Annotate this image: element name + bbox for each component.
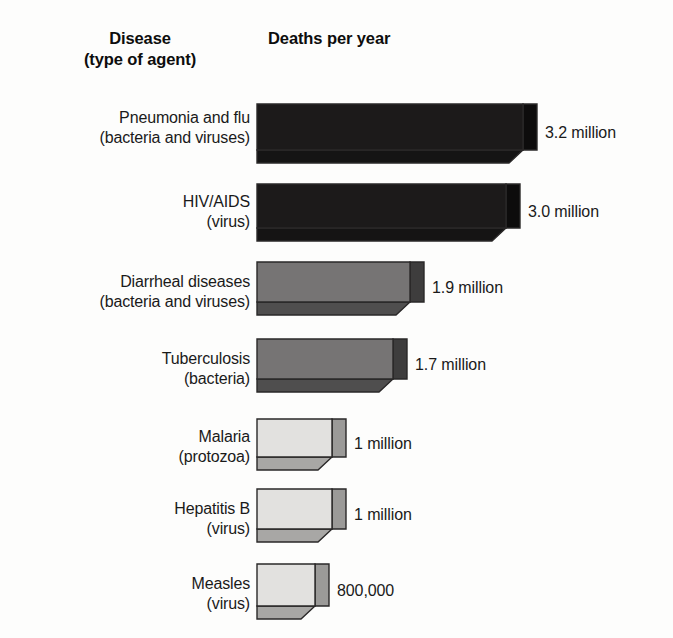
value-label-diarrheal-diseases: 1.9 million — [432, 278, 503, 298]
bar-face-side — [523, 104, 537, 150]
bar-container-malaria — [255, 417, 348, 472]
value-label-hepatitis-b: 1 million — [354, 505, 412, 525]
column-header-disease-line2: (type of agent) — [84, 50, 196, 68]
category-label-pneumonia-and-flu: Pneumonia and flu(bacteria and viruses) — [0, 108, 250, 148]
chart-row-measles: Measles(virus)800,000 — [0, 556, 673, 623]
chart-row-malaria: Malaria(protozoa)1 million — [0, 411, 673, 474]
category-label-line2: (virus) — [0, 212, 250, 232]
bar-container-hepatitis-b — [255, 487, 348, 544]
bar-face-side — [315, 564, 329, 606]
chart-row-tuberculosis: Tuberculosis(bacteria)1.7 million — [0, 331, 673, 396]
column-header-deaths: Deaths per year — [268, 28, 508, 49]
category-label-line1: Tuberculosis — [162, 350, 250, 367]
bar-face-front — [257, 104, 523, 150]
value-label-hiv-aids: 3.0 million — [528, 202, 599, 222]
category-label-malaria: Malaria(protozoa) — [0, 427, 250, 467]
category-label-hiv-aids: HIV/AIDS(virus) — [0, 192, 250, 232]
bar-face-side — [410, 262, 424, 302]
bar-face-front — [257, 262, 410, 302]
bar-face-front — [257, 184, 506, 228]
column-header-disease-line1: Disease — [109, 29, 171, 47]
bar-container-pneumonia-and-flu — [255, 102, 539, 165]
bar-face-side — [332, 489, 346, 529]
bar-container-measles — [255, 562, 331, 621]
category-label-diarrheal-diseases: Diarrheal diseases(bacteria and viruses) — [0, 272, 250, 312]
category-label-line2: (bacteria and viruses) — [0, 128, 250, 148]
bar-face-front — [257, 419, 332, 457]
chart-row-hepatitis-b: Hepatitis B(virus)1 million — [0, 481, 673, 546]
bar-face-bottom — [257, 150, 523, 163]
category-label-measles: Measles(virus) — [0, 574, 250, 614]
category-label-line1: HIV/AIDS — [183, 193, 250, 210]
bar-face-bottom — [257, 606, 315, 619]
bar-3d-measles — [255, 562, 331, 621]
value-label-measles: 800,000 — [337, 581, 394, 601]
category-label-line2: (virus) — [0, 519, 250, 539]
chart-header: Disease (type of agent) Deaths per year — [0, 28, 673, 80]
bar-face-bottom — [257, 228, 506, 241]
bar-3d-pneumonia-and-flu — [255, 102, 539, 165]
bar-face-bottom — [257, 457, 332, 470]
category-label-line1: Diarrheal diseases — [120, 273, 250, 290]
category-label-line1: Measles — [191, 575, 250, 592]
bar-container-hiv-aids — [255, 182, 522, 243]
bar-3d-tuberculosis — [255, 337, 409, 394]
value-label-malaria: 1 million — [354, 434, 412, 454]
bar-3d-diarrheal-diseases — [255, 260, 426, 317]
chart-row-hiv-aids: HIV/AIDS(virus)3.0 million — [0, 176, 673, 245]
category-label-line2: (bacteria) — [0, 369, 250, 389]
value-label-tuberculosis: 1.7 million — [415, 355, 486, 375]
bar-3d-hepatitis-b — [255, 487, 348, 544]
bar-face-bottom — [257, 302, 410, 315]
bar-face-side — [332, 419, 346, 457]
bar-face-front — [257, 339, 393, 379]
bar-face-side — [393, 339, 407, 379]
category-label-hepatitis-b: Hepatitis B(virus) — [0, 499, 250, 539]
category-label-line1: Malaria — [199, 428, 250, 445]
chart-row-diarrheal-diseases: Diarrheal diseases(bacteria and viruses)… — [0, 254, 673, 319]
category-label-line2: (virus) — [0, 594, 250, 614]
bar-face-bottom — [257, 529, 332, 542]
category-label-line1: Pneumonia and flu — [119, 109, 250, 126]
bar-chart-figure: Disease (type of agent) Deaths per year … — [0, 0, 673, 638]
bar-container-diarrheal-diseases — [255, 260, 426, 317]
bar-3d-malaria — [255, 417, 348, 472]
bar-3d-hiv-aids — [255, 182, 522, 243]
category-label-tuberculosis: Tuberculosis(bacteria) — [0, 349, 250, 389]
column-header-disease: Disease (type of agent) — [30, 28, 250, 70]
bar-container-tuberculosis — [255, 337, 409, 394]
category-label-line2: (bacteria and viruses) — [0, 292, 250, 312]
bar-face-side — [506, 184, 520, 228]
bar-face-front — [257, 564, 315, 606]
chart-row-pneumonia-and-flu: Pneumonia and flu(bacteria and viruses)3… — [0, 96, 673, 167]
category-label-line1: Hepatitis B — [174, 500, 250, 517]
bar-face-bottom — [257, 379, 393, 392]
value-label-pneumonia-and-flu: 3.2 million — [545, 123, 616, 143]
category-label-line2: (protozoa) — [0, 447, 250, 467]
bar-face-front — [257, 489, 332, 529]
